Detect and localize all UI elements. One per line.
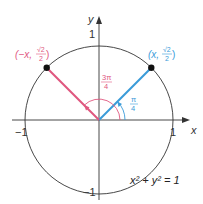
point-label-prefix: (x, — [148, 49, 159, 60]
x-tick-neg1: −1 — [15, 126, 28, 138]
x-tick-1: 1 — [170, 126, 176, 138]
point-dot — [44, 65, 50, 71]
y-tick-1: 1 — [89, 28, 95, 40]
point-label-num: √2 — [163, 46, 171, 53]
point-label-suffix: ) — [172, 49, 175, 60]
angle-label-pi-over-4: π 4 — [130, 95, 138, 113]
angle-den: 4 — [104, 82, 108, 91]
angle-num: 3π — [102, 73, 111, 82]
angle-den: 4 — [131, 104, 135, 113]
point-label-prefix: (−x, — [15, 49, 32, 60]
circle-equation: x² + y² = 1 — [129, 174, 180, 186]
radius-3pi-over-4 — [47, 68, 99, 120]
point-label-num: √2 — [37, 46, 45, 53]
point-label-suffix: ) — [46, 49, 49, 60]
point-label-den: 2 — [39, 55, 43, 62]
point-label-pi-over-4: (x, √2 2 ) — [148, 46, 175, 62]
x-axis-label: x — [190, 124, 197, 136]
angle-num: π — [131, 95, 136, 104]
point-dot — [148, 65, 154, 71]
y-tick-neg1: −1 — [83, 186, 96, 198]
point-label-3pi-over-4: (−x, √2 2 ) — [15, 46, 49, 62]
x-axis-arrow-icon — [182, 117, 190, 123]
angle-label-3pi-over-4: 3π 4 — [101, 73, 112, 91]
y-axis-arrow-icon — [96, 16, 102, 24]
unit-circle-diagram: x y −1 1 1 −1 (x, √2 2 ) (−x, √2 2 ) 3π … — [0, 0, 203, 204]
point-label-den: 2 — [165, 55, 169, 62]
y-axis-label: y — [87, 13, 95, 25]
